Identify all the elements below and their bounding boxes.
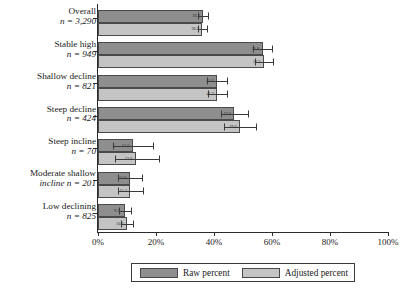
error-bar-line xyxy=(119,211,131,212)
category-sample-size: n = 3,290 xyxy=(0,17,96,27)
bar-adjusted xyxy=(98,88,217,101)
category-label: Moderate shallowincline n = 201 xyxy=(0,169,96,189)
x-axis-tick-label: 100% xyxy=(378,237,399,247)
category-sample-size: n = 70 xyxy=(0,147,96,157)
error-bar-cap xyxy=(159,155,160,162)
error-bar-cap xyxy=(255,58,256,65)
error-bar-line xyxy=(224,127,256,128)
x-axis-tick xyxy=(330,232,331,236)
error-bar-cap xyxy=(227,91,228,98)
error-bar-cap xyxy=(227,78,228,85)
error-bar-line xyxy=(115,159,159,160)
error-bar-cap xyxy=(224,123,225,130)
category-label: Stable highn = 949 xyxy=(0,40,96,60)
x-axis-line xyxy=(97,232,389,233)
error-bar-cap xyxy=(208,13,209,20)
plot-area: 36.336.056.857.241.041.247.049.012.013.0… xyxy=(98,4,388,231)
category-label: Steep inclinen = 70 xyxy=(0,137,96,157)
error-bar-line xyxy=(208,94,228,95)
x-axis-tick-label: 0% xyxy=(92,237,104,247)
category-sample-size: n = 825 xyxy=(0,212,96,222)
chart-legend: Raw percentAdjusted percent xyxy=(131,263,355,282)
error-bar-cap xyxy=(208,91,209,98)
bar-adjusted xyxy=(98,23,202,36)
legend-swatch xyxy=(242,268,280,278)
category-sample-size: n = 424 xyxy=(0,114,96,124)
error-bar-line xyxy=(118,178,142,179)
category-label: Shallow declinen = 821 xyxy=(0,72,96,92)
error-bar-cap xyxy=(207,78,208,85)
bar-raw xyxy=(98,42,263,55)
error-bar-cap xyxy=(143,188,144,195)
error-bar-line xyxy=(113,146,154,147)
x-axis-tick xyxy=(388,232,389,236)
category-sample-size: n = 949 xyxy=(0,50,96,60)
error-bar-line xyxy=(198,29,207,30)
legend-label: Raw percent xyxy=(183,268,230,278)
error-bar-cap xyxy=(115,155,116,162)
x-axis-tick-label: 40% xyxy=(206,237,223,247)
x-axis-tick-label: 20% xyxy=(148,237,165,247)
x-axis-tick-label: 60% xyxy=(264,237,281,247)
error-bar-cap xyxy=(153,142,154,149)
error-bar-cap xyxy=(253,45,254,52)
error-bar-cap xyxy=(198,26,199,33)
error-bar-cap xyxy=(133,220,134,227)
error-bar-cap xyxy=(131,207,132,214)
error-bar-cap xyxy=(207,26,208,33)
bar-raw xyxy=(98,10,203,23)
error-bar-cap xyxy=(272,45,273,52)
bar-adjusted xyxy=(98,55,264,68)
legend-swatch xyxy=(140,268,178,278)
legend-item: Raw percent xyxy=(140,268,230,278)
error-bar-cap xyxy=(121,220,122,227)
x-axis-tick xyxy=(98,232,99,236)
bar-raw xyxy=(98,75,217,88)
error-bar-line xyxy=(207,81,227,82)
category-label: Steep declinen = 424 xyxy=(0,105,96,125)
x-axis-tick xyxy=(272,232,273,236)
x-axis-tick-label: 80% xyxy=(322,237,339,247)
error-bar-cap xyxy=(273,58,274,65)
x-axis-tick xyxy=(214,232,215,236)
error-bar-line xyxy=(198,16,208,17)
x-axis-tick xyxy=(156,232,157,236)
bar-adjusted xyxy=(98,120,240,133)
error-bar-line xyxy=(253,49,272,50)
error-bar-line xyxy=(255,62,274,63)
category-sample-size: incline n = 201 xyxy=(0,179,96,189)
legend-label: Adjusted percent xyxy=(285,268,348,278)
error-bar-line xyxy=(221,114,248,115)
category-label: Low decliningn = 825 xyxy=(0,202,96,222)
error-bar-cap xyxy=(119,207,120,214)
error-bar-cap xyxy=(118,175,119,182)
error-bar-cap xyxy=(118,188,119,195)
bar-chart: Overalln = 3,290Stable highn = 949Shallo… xyxy=(0,0,407,289)
error-bar-cap xyxy=(248,110,249,117)
error-bar-cap xyxy=(113,142,114,149)
category-sample-size: n = 821 xyxy=(0,82,96,92)
error-bar-cap xyxy=(221,110,222,117)
error-bar-cap xyxy=(198,13,199,20)
error-bar-line xyxy=(118,191,142,192)
error-bar-cap xyxy=(142,175,143,182)
category-label: Overalln = 3,290 xyxy=(0,7,96,27)
error-bar-line xyxy=(121,224,133,225)
bar-raw xyxy=(98,107,234,120)
legend-item: Adjusted percent xyxy=(242,268,348,278)
error-bar-cap xyxy=(256,123,257,130)
